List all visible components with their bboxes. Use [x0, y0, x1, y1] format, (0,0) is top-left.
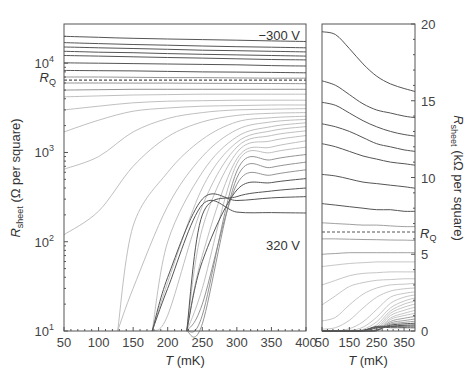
- curve--300-V: [322, 32, 415, 92]
- svg-text:100: 100: [88, 335, 110, 350]
- curve-c13: [322, 279, 415, 305]
- svg-text:400: 400: [295, 335, 317, 350]
- curve-c9: [64, 83, 306, 84]
- curve-c3: [322, 102, 415, 136]
- curve-c2: [322, 81, 415, 118]
- curve-c28: [187, 188, 306, 331]
- svg-text:0: 0: [421, 324, 428, 339]
- left-panel-log-plot: 50100150200250300350400 101102103104 RQ …: [8, 24, 317, 368]
- svg-text:10: 10: [421, 171, 435, 186]
- curve-c8: [64, 77, 306, 78]
- right-plot-frame: [322, 24, 415, 331]
- right-y-axis-title: Rsheet (kΩ per square): [449, 115, 466, 241]
- chart-figure: 50100150200250300350400 101102103104 RQ …: [0, 0, 471, 379]
- curve-c6: [322, 174, 415, 188]
- svg-text:104: 104: [35, 54, 54, 71]
- svg-text:50: 50: [57, 335, 71, 350]
- curve-c10: [64, 89, 306, 90]
- svg-text:102: 102: [35, 233, 54, 250]
- svg-text:15: 15: [421, 94, 435, 109]
- curve-c29: [152, 194, 306, 331]
- svg-text:150: 150: [122, 335, 144, 350]
- svg-text:50: 50: [315, 335, 329, 350]
- curve-c6: [64, 63, 306, 66]
- svg-text:101: 101: [35, 322, 54, 339]
- curve-c11: [322, 262, 415, 267]
- svg-text:350: 350: [393, 335, 415, 350]
- svg-text:250: 250: [191, 335, 213, 350]
- right-panel-linear-plot: 50150250350 05101520 RQ T (mK) Rsheet (k…: [315, 17, 466, 368]
- annotation-320v: 320 V: [266, 238, 300, 253]
- annotation-minus-300v: −300 V: [258, 28, 300, 43]
- curve-c5: [322, 144, 415, 166]
- curve-c10: [322, 253, 415, 255]
- curve-c8: [322, 223, 415, 227]
- curve-c5: [64, 56, 306, 60]
- left-y-axis-title: Rsheet (Ω per square): [8, 118, 25, 237]
- svg-text:300: 300: [226, 335, 248, 350]
- svg-text:103: 103: [35, 143, 54, 160]
- left-curves: [64, 36, 306, 337]
- svg-text:200: 200: [157, 335, 179, 350]
- svg-text:20: 20: [421, 17, 435, 32]
- curve-320-V: [152, 200, 306, 331]
- curve-c7: [64, 70, 306, 72]
- curve-c20: [152, 131, 306, 331]
- curve-c18: [152, 123, 306, 331]
- curve-c3: [64, 47, 306, 52]
- curve-c11: [64, 94, 306, 97]
- svg-text:150: 150: [339, 335, 361, 350]
- curve-c7: [322, 204, 415, 212]
- curve-c12: [322, 272, 415, 285]
- right-curves: [322, 32, 415, 332]
- svg-text:250: 250: [366, 335, 388, 350]
- svg-text:5: 5: [421, 247, 428, 262]
- left-x-axis-title: T (mK): [165, 353, 205, 368]
- svg-text:350: 350: [261, 335, 283, 350]
- right-rq-label: RQ: [420, 226, 436, 243]
- left-rq-label: RQ: [40, 70, 56, 87]
- curve-c9: [322, 239, 415, 241]
- curve-c2: [64, 43, 306, 48]
- curve-c4: [64, 51, 306, 56]
- right-x-axis-title: T (mK): [348, 353, 388, 368]
